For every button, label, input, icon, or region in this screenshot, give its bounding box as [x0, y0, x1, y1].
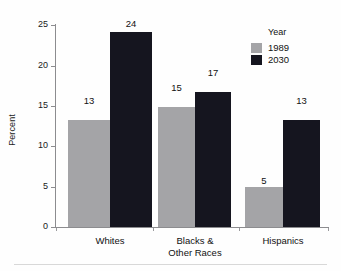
y-axis-line — [55, 24, 56, 228]
legend-label-2030: 2030 — [268, 55, 289, 65]
bar-1989-hispanics[interactable] — [245, 187, 283, 227]
x-tick-mark-1 — [153, 228, 154, 231]
x-tick-mark-left — [56, 228, 57, 231]
legend-label-1989: 1989 — [268, 43, 289, 53]
x-category-label-hispanics: Hispanics — [243, 235, 323, 247]
x-category-label-blacks-other-races-line1: Blacks & — [155, 235, 235, 247]
x-tick-mark-2 — [239, 228, 240, 231]
x-axis-line — [55, 227, 329, 228]
bar-value-label-1989-hispanics: 5 — [244, 176, 284, 186]
y-tick-label-25: 25 — [24, 20, 48, 29]
bar-value-label-2030-hispanics: 13 — [282, 96, 321, 106]
legend-swatch-1989 — [251, 43, 262, 53]
y-tick-mark-5 — [51, 187, 55, 188]
y-tick-label-15: 15 — [24, 101, 48, 110]
bar-1989-blacks-other-races[interactable] — [158, 107, 195, 227]
y-tick-label-0: 0 — [24, 222, 48, 231]
bar-value-label-2030-blacks-other-races: 17 — [194, 68, 232, 78]
x-category-label-blacks-other-races-line2: Other Races — [155, 247, 235, 259]
x-tick-mark-right — [328, 228, 329, 231]
y-tick-label-5: 5 — [24, 182, 48, 191]
bar-2030-whites[interactable] — [110, 32, 152, 227]
legend-title: Year — [268, 28, 286, 37]
y-tick-mark-15 — [51, 106, 55, 107]
bar-2030-blacks-other-races[interactable] — [195, 92, 231, 227]
bar-value-label-1989-whites: 13 — [69, 96, 109, 106]
bar-1989-whites[interactable] — [68, 120, 110, 227]
y-tick-mark-10 — [51, 146, 55, 147]
y-axis-title: Percent — [8, 100, 17, 160]
bar-chart-figure: Percent 25 20 15 10 5 0 13 24 Whites 15 … — [0, 0, 341, 271]
legend-swatch-2030 — [251, 55, 262, 65]
bar-value-label-1989-blacks-other-races: 15 — [157, 83, 196, 93]
y-tick-label-10: 10 — [24, 141, 48, 150]
bar-value-label-2030-whites: 24 — [111, 19, 151, 29]
y-tick-mark-25 — [51, 25, 55, 26]
bar-2030-hispanics[interactable] — [283, 120, 320, 227]
y-tick-label-20: 20 — [24, 61, 48, 70]
y-tick-mark-0 — [51, 227, 55, 228]
x-category-label-whites: Whites — [70, 235, 150, 247]
y-tick-mark-20 — [51, 66, 55, 67]
footer-divider — [14, 264, 327, 265]
